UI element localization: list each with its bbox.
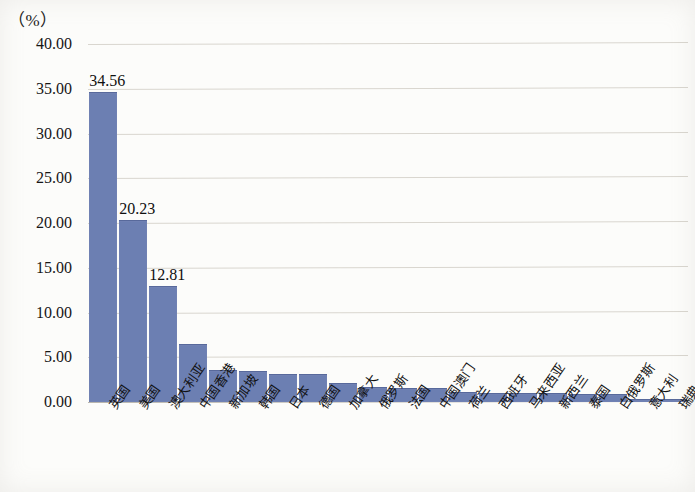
bar-column[interactable] [599,44,627,402]
y-axis-tick-label: 0.00 [44,394,72,410]
bar[interactable] [119,220,147,402]
bar[interactable] [89,92,117,402]
x-axis-category-label: 加拿大 [347,404,358,412]
x-axis-category-label: 泰国 [587,404,598,412]
x-axis-category-label: 意大利 [647,404,658,412]
y-axis-tick-label: 30.00 [36,126,72,142]
bar-column[interactable]: 20.23 [119,44,147,402]
y-axis-tick-label: 25.00 [36,170,72,186]
x-axis-category-label: 瑞典 [677,404,688,412]
bar-column[interactable] [389,44,417,402]
x-axis-category-label: 日本 [287,404,298,412]
bar-column[interactable] [419,44,447,402]
x-axis-category-label: 法国 [407,404,418,412]
x-axis-category-label: 中国澳门 [437,404,448,412]
x-axis-category-label: 西班牙 [497,404,508,412]
bar-column[interactable] [299,44,327,402]
y-axis-tick-label: 15.00 [36,260,72,276]
y-axis: 40.0035.0030.0025.0020.0015.0010.005.000… [0,44,80,402]
x-axis-category-label: 韩国 [257,404,268,412]
x-axis-category-label: 新加坡 [227,404,238,412]
bar-column[interactable] [629,44,657,402]
bar-series: 34.5620.2312.81 [88,44,688,402]
bar-column[interactable] [359,44,387,402]
bar-column[interactable]: 34.56 [89,44,117,402]
x-axis-category-label: 美国 [137,404,148,412]
x-axis-category-label: 澳大利亚 [167,404,178,412]
bar-column[interactable] [329,44,357,402]
x-axis-category-label: 中国香港 [197,404,208,412]
bar-column[interactable] [479,44,507,402]
x-axis-category-label: 荷兰 [467,404,478,412]
y-axis-tick-label: 10.00 [36,305,72,321]
bar-column[interactable] [449,44,477,402]
bar-column[interactable] [509,44,537,402]
x-axis-category-label: 马来西亚 [527,404,538,412]
x-axis-category-label: 俄罗斯 [377,404,388,412]
x-axis-category-label: 英国 [107,404,118,412]
bar-column[interactable] [269,44,297,402]
bar-column[interactable] [659,44,687,402]
bar-column[interactable] [539,44,567,402]
bar-column[interactable] [569,44,597,402]
plot-area: 34.5620.2312.81 [88,44,688,402]
y-axis-tick-label: 5.00 [44,349,72,365]
y-axis-tick-label: 35.00 [36,81,72,97]
x-axis-category-label: 新西兰 [557,404,568,412]
bar-column[interactable] [179,44,207,402]
bar-column[interactable]: 12.81 [149,44,177,402]
x-axis-category-label: 白俄罗斯 [617,404,628,412]
chart-page: （%） 40.0035.0030.0025.0020.0015.0010.005… [0,0,695,492]
x-axis-category-labels: 英国美国澳大利亚中国香港新加坡韩国日本德国加拿大俄罗斯法国中国澳门荷兰西班牙马来… [88,404,688,492]
y-axis-tick-label: 40.00 [36,36,72,52]
y-axis-unit-label: （%） [8,6,58,31]
x-axis-category-label: 德国 [317,404,328,412]
bar-column[interactable] [209,44,237,402]
y-axis-tick-label: 20.00 [36,215,72,231]
bar-column[interactable] [239,44,267,402]
